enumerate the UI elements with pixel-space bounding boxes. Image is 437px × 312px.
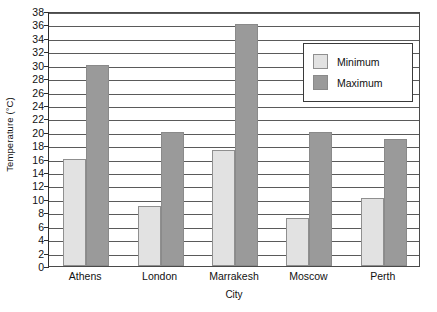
legend: Minimum Maximum bbox=[303, 43, 413, 102]
y-axis-tick-label: 32 bbox=[32, 47, 44, 58]
y-axis-tick-mark bbox=[44, 79, 49, 80]
x-axis-tick-label: Moscow bbox=[289, 270, 328, 282]
y-axis-tick-mark bbox=[44, 186, 49, 187]
bar-marrakesh-minimum bbox=[212, 150, 235, 266]
y-axis-tick-mark bbox=[44, 160, 49, 161]
y-axis-tick-mark bbox=[44, 106, 49, 107]
y-axis-tick-mark bbox=[44, 52, 49, 53]
legend-label-minimum: Minimum bbox=[337, 56, 380, 68]
bar-athens-maximum bbox=[86, 65, 109, 266]
y-axis-tick-label: 18 bbox=[32, 141, 44, 152]
bar-london-maximum bbox=[161, 132, 184, 266]
y-axis-tick-mark bbox=[44, 173, 49, 174]
bar-london-minimum bbox=[138, 206, 161, 266]
y-axis-tick-label: 12 bbox=[32, 181, 44, 192]
legend-swatch-maximum bbox=[313, 75, 328, 90]
y-axis-tick-mark bbox=[44, 254, 49, 255]
y-axis-tick-label: 26 bbox=[32, 87, 44, 98]
y-axis-tick-mark bbox=[44, 227, 49, 228]
bar-athens-minimum bbox=[63, 159, 86, 266]
x-axis-tick-labels: AthensLondonMarrakeshMoscowPerth bbox=[48, 270, 420, 286]
x-axis-tick-label: Perth bbox=[370, 270, 395, 282]
y-axis-title: Temperature (°C) bbox=[0, 0, 18, 268]
x-axis-tick-label: Marrakesh bbox=[209, 270, 259, 282]
legend-item-maximum: Maximum bbox=[313, 72, 404, 93]
x-axis-tick-label: Athens bbox=[69, 270, 102, 282]
y-axis-tick-mark bbox=[44, 240, 49, 241]
x-axis-title: City bbox=[48, 289, 420, 300]
y-axis-tick-mark bbox=[44, 66, 49, 67]
y-axis-tick-labels: 02468101214161820222426283032343638 bbox=[18, 12, 44, 267]
y-axis-tick-mark bbox=[44, 200, 49, 201]
y-axis-tick-label: 20 bbox=[32, 128, 44, 139]
y-axis-tick-mark bbox=[44, 119, 49, 120]
y-axis-tick-label: 38 bbox=[32, 7, 44, 18]
y-axis-tick-mark bbox=[44, 39, 49, 40]
y-axis-tick-mark bbox=[44, 267, 49, 268]
y-axis-tick-label: 28 bbox=[32, 74, 44, 85]
y-axis-tick-mark bbox=[44, 12, 49, 13]
y-axis-tick-mark bbox=[44, 213, 49, 214]
y-axis-tick-label: 10 bbox=[32, 195, 44, 206]
y-axis-tick-label: 22 bbox=[32, 114, 44, 125]
y-axis-tick-mark bbox=[44, 133, 49, 134]
y-axis-tick-mark bbox=[44, 25, 49, 26]
legend-item-minimum: Minimum bbox=[313, 51, 404, 72]
y-axis-tick-label: 24 bbox=[32, 101, 44, 112]
y-axis-tick-label: 14 bbox=[32, 168, 44, 179]
y-axis-tick-mark bbox=[44, 146, 49, 147]
legend-swatch-minimum bbox=[313, 54, 328, 69]
y-axis-tick-label: 34 bbox=[32, 34, 44, 45]
bar-chart: Temperature (°C) 02468101214161820222426… bbox=[0, 0, 437, 312]
y-axis-tick-label: 16 bbox=[32, 154, 44, 165]
bar-perth-maximum bbox=[384, 139, 407, 267]
y-axis-title-text: Temperature (°C) bbox=[4, 97, 15, 172]
y-axis-tick-label: 30 bbox=[32, 60, 44, 71]
y-axis-tick-label: 36 bbox=[32, 20, 44, 31]
bar-moscow-minimum bbox=[286, 218, 309, 266]
x-axis-tick-label: London bbox=[142, 270, 177, 282]
bar-perth-minimum bbox=[361, 198, 384, 266]
y-axis-tick-mark bbox=[44, 93, 49, 94]
legend-label-maximum: Maximum bbox=[337, 77, 383, 89]
bar-marrakesh-maximum bbox=[235, 24, 258, 266]
bar-moscow-maximum bbox=[309, 132, 332, 266]
